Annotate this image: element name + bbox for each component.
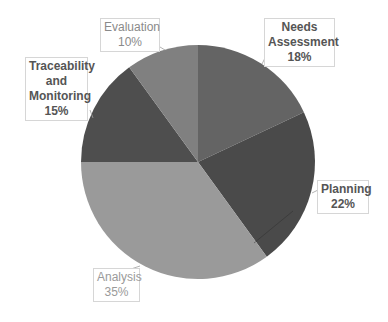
data-label-traceability-and-monitoring: Traceability and Monitoring 15%	[25, 57, 88, 121]
label-value: 18%	[268, 50, 331, 65]
label-text: Needs	[268, 20, 331, 35]
data-label-analysis: Analysis 35%	[93, 268, 140, 302]
label-text: Analysis	[97, 270, 136, 285]
label-value: 10%	[104, 35, 156, 50]
pie-chart: Needs Assessment 18% Planning 22% Analys…	[0, 0, 388, 322]
label-text: Monitoring	[29, 89, 84, 104]
pie-slices	[81, 45, 315, 279]
label-text: Traceability	[29, 59, 84, 74]
label-text: and	[29, 74, 84, 89]
label-value: 15%	[29, 104, 84, 119]
leader-line-evaluation	[160, 47, 165, 50]
label-text: Evaluation	[104, 20, 156, 35]
label-text: Planning	[321, 182, 365, 197]
label-text: Assessment	[268, 35, 331, 50]
data-label-needs-assessment: Needs Assessment 18%	[264, 18, 335, 67]
label-value: 35%	[97, 285, 136, 300]
data-label-evaluation: Evaluation 10%	[100, 18, 160, 52]
label-value: 22%	[321, 197, 365, 212]
data-label-planning: Planning 22%	[317, 180, 369, 214]
